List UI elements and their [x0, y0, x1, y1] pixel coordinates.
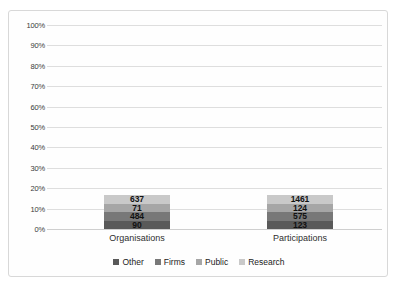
bar-segment-value: 71	[132, 204, 141, 213]
bar-participations[interactable]: 123 575 124 1461	[267, 195, 333, 229]
y-axis: 100% 90% 80% 70% 60% 50% 40% 30% 20% 10%…	[15, 25, 45, 229]
gridline	[47, 25, 382, 26]
legend-swatch-icon	[196, 259, 202, 265]
bar-organisations[interactable]: 90 484 71 637	[104, 195, 170, 229]
legend-swatch-icon	[239, 259, 245, 265]
bar-segment-value: 123	[293, 221, 307, 230]
legend-label: Other	[122, 257, 143, 267]
bar-segment-value: 575	[293, 212, 307, 221]
bar-segment-value: 1461	[291, 195, 310, 204]
bar-segment-research[interactable]: 637	[104, 195, 170, 204]
bar-segment-value: 637	[130, 195, 144, 204]
y-axis-tick: 100%	[27, 21, 45, 30]
y-axis-tick: 70%	[31, 82, 45, 91]
y-axis-tick: 20%	[31, 184, 45, 193]
gridline	[47, 168, 382, 169]
legend-item-other[interactable]: Other	[113, 257, 143, 267]
x-axis-label-organisations: Organisations	[109, 233, 165, 243]
y-axis-tick: 80%	[31, 61, 45, 70]
gridline	[47, 188, 382, 189]
y-axis-tick: 0%	[35, 225, 45, 234]
bar-segment-public[interactable]: 124	[267, 204, 333, 213]
gridline	[47, 66, 382, 67]
bar-segment-research[interactable]: 1461	[267, 195, 333, 204]
gridline	[47, 147, 382, 148]
legend-label: Firms	[164, 257, 185, 267]
legend-label: Research	[248, 257, 284, 267]
legend-item-research[interactable]: Research	[239, 257, 284, 267]
chart-frame: 100% 90% 80% 70% 60% 50% 40% 30% 20% 10%…	[8, 10, 388, 277]
legend-label: Public	[205, 257, 228, 267]
bar-segment-other[interactable]: 90	[104, 221, 170, 230]
chart-legend: Other Firms Public Research	[9, 257, 389, 267]
bar-segment-other[interactable]: 123	[267, 221, 333, 230]
y-axis-tick: 40%	[31, 143, 45, 152]
legend-swatch-icon	[155, 259, 161, 265]
y-axis-tick: 30%	[31, 163, 45, 172]
bar-segment-value: 124	[293, 204, 307, 213]
y-axis-tick: 60%	[31, 102, 45, 111]
bar-segment-value: 484	[130, 212, 144, 221]
legend-swatch-icon	[113, 259, 119, 265]
legend-item-public[interactable]: Public	[196, 257, 228, 267]
bar-segment-firms[interactable]: 575	[267, 212, 333, 221]
legend-item-firms[interactable]: Firms	[155, 257, 185, 267]
axis-baseline	[47, 229, 382, 230]
gridline	[47, 107, 382, 108]
gridline	[47, 86, 382, 87]
plot-area: 90 484 71 637 123 575 124 1461	[47, 25, 382, 229]
bar-segment-value: 90	[132, 221, 141, 230]
bar-segment-firms[interactable]: 484	[104, 212, 170, 221]
gridline	[47, 45, 382, 46]
y-axis-tick: 90%	[31, 41, 45, 50]
gridline	[47, 127, 382, 128]
x-axis: Organisations Participations	[47, 233, 382, 251]
y-axis-tick: 10%	[31, 204, 45, 213]
bar-segment-public[interactable]: 71	[104, 204, 170, 213]
x-axis-label-participations: Participations	[273, 233, 327, 243]
y-axis-tick: 50%	[31, 123, 45, 132]
